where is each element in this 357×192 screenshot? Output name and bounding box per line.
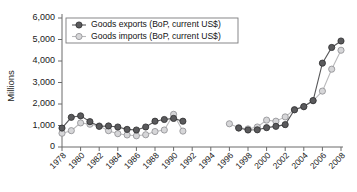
imports-data-point	[329, 66, 335, 72]
imports-data-point	[161, 127, 167, 133]
exports-data-point	[96, 123, 102, 129]
x-tick-label: 2002	[271, 150, 292, 171]
imports-data-point	[226, 121, 232, 127]
x-tick-label: 1998	[233, 150, 254, 171]
exports-data-point	[273, 123, 279, 129]
exports-data-point	[115, 124, 121, 130]
x-tick-label: 1980	[66, 150, 87, 171]
exports-data-point	[236, 125, 242, 131]
y-tick-label: 6,000	[32, 12, 55, 22]
x-tick-label: 1994	[196, 150, 217, 171]
x-tick-label: 1992	[178, 150, 199, 171]
exports-data-point	[133, 127, 139, 133]
exports-data-point	[291, 107, 297, 113]
exports-data-point	[264, 125, 270, 131]
exports-data-point	[338, 38, 344, 44]
x-tick-label: 1982	[85, 150, 106, 171]
imports-data-point	[68, 128, 74, 134]
exports-data-point	[171, 115, 177, 121]
series-plot-area	[59, 38, 344, 139]
exports-data-point	[78, 113, 84, 119]
legend-marker-exports	[76, 22, 82, 28]
exports-data-point	[301, 103, 307, 109]
imports-data-point	[264, 117, 270, 123]
chart-legend: Goods exports (BoP, current US$)Goods im…	[66, 18, 238, 43]
x-tick-label: 2006	[308, 150, 329, 171]
x-tick-label: 2000	[252, 150, 273, 171]
x-axis: 1978198019821984198619881990199219941996…	[47, 147, 347, 171]
exports-data-point	[68, 114, 74, 120]
y-tick-label: 4,000	[32, 55, 55, 65]
exports-data-point	[87, 119, 93, 125]
exports-data-point	[105, 123, 111, 129]
y-axis-title: Millions	[5, 70, 16, 102]
imports-data-point	[115, 131, 121, 137]
exports-data-point	[59, 125, 65, 131]
y-tick-label: 0	[50, 141, 55, 151]
exports-data-point	[143, 124, 149, 130]
exports-data-point	[124, 126, 130, 132]
imports-data-point	[180, 128, 186, 134]
exports-data-point	[161, 116, 167, 122]
x-tick-label: 1986	[122, 150, 143, 171]
exports-data-point	[319, 60, 325, 66]
imports-data-point	[78, 120, 84, 126]
x-tick-label: 1996	[215, 150, 236, 171]
legend-marker-imports	[76, 33, 82, 39]
legend-label-exports: Goods exports (BoP, current US$)	[91, 19, 221, 29]
exports-data-point	[329, 44, 335, 50]
x-tick-label: 1990	[159, 150, 180, 171]
x-tick-label: 1988	[140, 150, 161, 171]
x-tick-label: 1978	[47, 150, 68, 171]
legend-label-imports: Goods imports (BoP, current US$)	[91, 31, 221, 41]
chart-container: 01,0002,0003,0004,0005,0006,000 19781980…	[0, 0, 357, 192]
y-tick-label: 5,000	[32, 34, 55, 44]
exports-data-point	[152, 118, 158, 124]
imports-data-point	[143, 132, 149, 138]
exports-data-point	[180, 118, 186, 124]
exports-data-point	[254, 127, 260, 133]
y-tick-label: 2,000	[32, 98, 55, 108]
imports-data-point	[338, 47, 344, 53]
y-tick-label: 3,000	[32, 77, 55, 87]
x-tick-label: 2008	[326, 150, 347, 171]
x-tick-label: 1984	[103, 150, 124, 171]
exports-data-point	[310, 97, 316, 103]
exports-data-point	[282, 122, 288, 128]
y-axis: 01,0002,0003,0004,0005,0006,000	[32, 12, 62, 151]
imports-data-point	[319, 88, 325, 94]
line-chart: 01,0002,0003,0004,0005,0006,000 19781980…	[0, 0, 357, 192]
exports-line	[239, 41, 341, 130]
y-tick-label: 1,000	[32, 120, 55, 130]
imports-data-point	[133, 133, 139, 139]
imports-data-point	[282, 114, 288, 120]
exports-data-point	[245, 127, 251, 133]
x-tick-label: 2004	[289, 150, 310, 171]
imports-data-point	[152, 128, 158, 134]
